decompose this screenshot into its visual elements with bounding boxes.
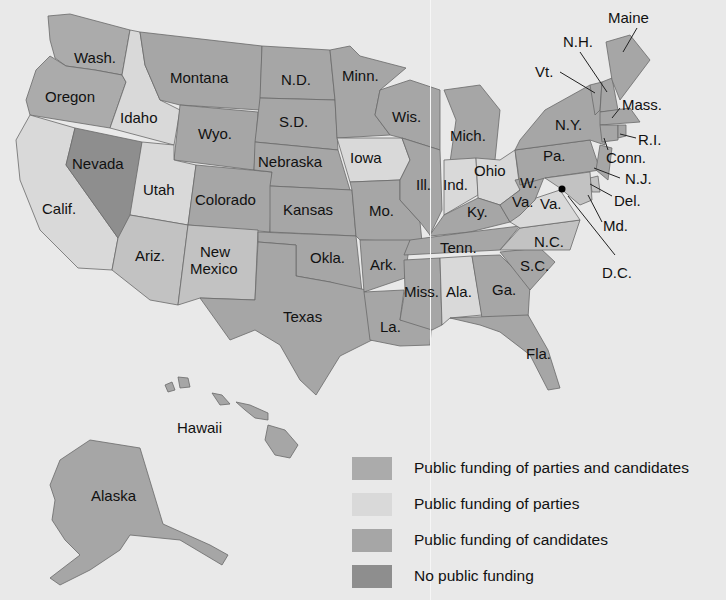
legend-label: No public funding (414, 567, 534, 585)
label-ohio: Ohio (474, 163, 506, 179)
legend-item-parties-and-candidates: Public funding of parties and candidates (352, 450, 689, 486)
legend-item-candidates: Public funding of candidates (352, 522, 689, 558)
label-nevada: Nevada (72, 156, 124, 172)
label-ri: R.I. (638, 132, 661, 148)
label-calif: Calif. (42, 201, 76, 217)
label-hawaii: Hawaii (177, 420, 222, 436)
label-nh: N.H. (563, 34, 593, 50)
label-iowa: Iowa (350, 150, 382, 166)
label-ala: Ala. (446, 284, 472, 300)
label-utah: Utah (143, 182, 175, 198)
label-pa: Pa. (543, 148, 566, 164)
label-sd: S.D. (279, 114, 308, 130)
label-wyo: Wyo. (198, 126, 232, 142)
label-nc: N.C. (534, 234, 564, 250)
label-fla: Fla. (526, 346, 551, 362)
legend: Public funding of parties and candidates… (352, 450, 689, 594)
label-ark: Ark. (370, 257, 397, 273)
state-connecticut (600, 125, 618, 142)
state-hawaii (165, 377, 298, 458)
legend-swatch (352, 565, 392, 588)
label-miss: Miss. (404, 284, 439, 300)
label-vt: Vt. (535, 64, 553, 80)
label-montana: Montana (170, 70, 228, 86)
label-ind: Ind. (443, 177, 468, 193)
legend-label: Public funding of parties and candidates (414, 459, 689, 477)
state-alaska (50, 440, 228, 585)
label-idaho: Idaho (120, 110, 158, 126)
label-dc: D.C. (602, 265, 632, 281)
label-mexico: Mexico (190, 261, 238, 277)
label-wash: Wash. (74, 50, 116, 66)
legend-item-no-funding: No public funding (352, 558, 689, 594)
label-new: New (200, 244, 230, 260)
label-ky: Ky. (467, 204, 488, 220)
label-ill: Ill. (416, 177, 431, 193)
dc-marker (559, 186, 566, 193)
label-tenn: Tenn. (440, 240, 477, 256)
label-nj: N.J. (625, 171, 652, 187)
label-md: Md. (603, 218, 628, 234)
label-mo: Mo. (369, 203, 394, 219)
label-texas: Texas (283, 309, 322, 325)
state-rhode-island (618, 125, 626, 138)
label-va: Va. (540, 196, 561, 212)
label-ariz: Ariz. (135, 248, 165, 264)
label-colorado: Colorado (195, 192, 256, 208)
label-wva: Va. (512, 194, 533, 210)
label-okla: Okla. (310, 250, 345, 266)
label-nebraska: Nebraska (258, 154, 322, 170)
label-nd: N.D. (281, 72, 311, 88)
label-la: La. (380, 319, 401, 335)
label-minn: Minn. (342, 68, 379, 84)
label-ny: N.Y. (555, 117, 582, 133)
label-del: Del. (614, 193, 641, 209)
label-oregon: Oregon (45, 89, 95, 105)
label-ga: Ga. (492, 282, 516, 298)
state-michigan (444, 85, 500, 162)
label-w: W. (520, 175, 538, 191)
label-kansas: Kansas (283, 202, 333, 218)
label-wis: Wis. (392, 109, 421, 125)
legend-item-parties: Public funding of parties (352, 486, 689, 522)
legend-swatch (352, 493, 392, 516)
label-mich: Mich. (450, 128, 486, 144)
label-maine: Maine (608, 10, 649, 26)
label-sc: S.C. (520, 258, 549, 274)
legend-swatch (352, 457, 392, 480)
label-mass: Mass. (622, 97, 662, 113)
legend-label: Public funding of candidates (414, 531, 608, 549)
legend-label: Public funding of parties (414, 495, 579, 513)
label-conn: Conn. (606, 150, 646, 166)
legend-swatch (352, 529, 392, 552)
label-alaska: Alaska (91, 488, 136, 504)
